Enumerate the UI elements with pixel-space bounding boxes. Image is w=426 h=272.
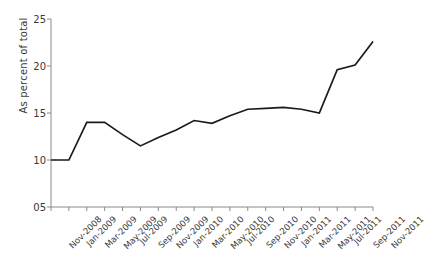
line-chart: As percent of total 0510152025 Nov-2008J…: [0, 0, 385, 272]
x-axis-tick-labels: Nov-2008Jan-2009Mar-2009May-2009Jul-2009…: [0, 0, 385, 272]
